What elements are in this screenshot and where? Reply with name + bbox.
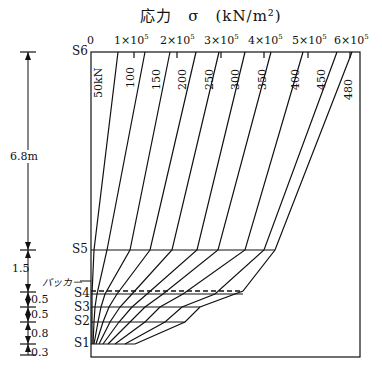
curve-label-150: 150 — [150, 69, 163, 90]
dim-0-8: 0.8 — [31, 327, 49, 340]
level-label-s1: S1 — [74, 336, 90, 350]
curve-label-480: 480 — [342, 79, 355, 100]
dim-0-5b: 0.5 — [31, 308, 49, 321]
curve-label-450: 450 — [315, 69, 328, 90]
level-label-s2: S2 — [74, 314, 90, 328]
curve-label-350: 350 — [256, 69, 269, 90]
curve-480 — [135, 52, 352, 344]
dim-0-5a: 0.5 — [31, 293, 49, 306]
curve-label-200: 200 — [176, 69, 189, 90]
curve-label-250: 250 — [203, 69, 216, 90]
level-label-s5: S5 — [72, 242, 88, 256]
level-label-s6: S6 — [72, 44, 88, 58]
curve-label-400: 400 — [289, 69, 302, 90]
curve-200 — [96, 52, 196, 344]
curve-label-300: 300 — [229, 69, 242, 90]
curve-150 — [94, 52, 170, 344]
curve-450 — [125, 52, 337, 344]
curve-label-50kN: 50kN — [92, 68, 105, 98]
dim-1-5: 1.5 — [12, 262, 30, 275]
level-label-s4: S4 — [74, 286, 90, 300]
curve-350 — [108, 52, 271, 344]
curve-300 — [103, 52, 245, 344]
curve-label-100: 100 — [124, 67, 137, 88]
stress-chart — [0, 0, 382, 377]
level-label-s3: S3 — [74, 300, 90, 314]
dim-0-3: 0.3 — [31, 346, 49, 359]
dim-6-8m: 6.8m — [10, 150, 38, 163]
